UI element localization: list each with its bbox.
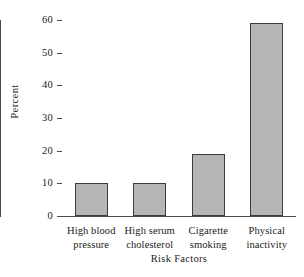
x-tick-label-line: smoking [179, 238, 238, 252]
x-tick-label-line: cholesterol [121, 238, 180, 252]
y-tick-mark [57, 216, 62, 217]
y-tick-label: 40 [25, 80, 53, 90]
y-tick-label: 10 [25, 178, 53, 188]
x-tick-label-line: High serum [121, 224, 180, 238]
y-tick-label: 60 [25, 15, 53, 25]
plot-area [62, 20, 296, 216]
x-tick-label-line: Cigarette [179, 224, 238, 238]
y-tick-label: 50 [25, 48, 53, 58]
bar-chart-figure: Percent 60 50 40 30 20 10 0 High blood p… [0, 0, 304, 277]
x-tick-label-line: Physical [238, 224, 297, 238]
y-axis-title: Percent [9, 72, 20, 132]
bar-high-blood-pressure [75, 183, 108, 216]
bar-high-serum-cholesterol [133, 183, 166, 216]
bar-physical-inactivity [250, 23, 283, 216]
x-axis-line [62, 216, 296, 217]
bar-cigarette-smoking [192, 154, 225, 216]
x-tick-label-high-serum-cholesterol: High serum cholesterol [121, 224, 180, 251]
y-tick-label: 30 [25, 113, 53, 123]
x-tick-label-high-blood-pressure: High blood pressure [62, 224, 121, 251]
x-axis-title: Risk Factors [62, 253, 296, 264]
x-tick-label-line: pressure [62, 238, 121, 252]
x-tick-label-line: inactivity [238, 238, 297, 252]
y-axis-line [0, 20, 1, 217]
x-tick-label-cigarette-smoking: Cigarette smoking [179, 224, 238, 251]
y-tick-label: 0 [25, 211, 53, 221]
x-tick-label-line: High blood [62, 224, 121, 238]
y-tick-label: 20 [25, 146, 53, 156]
x-tick-label-physical-inactivity: Physical inactivity [238, 224, 297, 251]
